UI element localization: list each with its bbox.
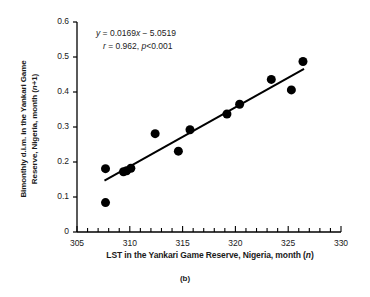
data-point — [101, 198, 110, 207]
x-tick-label: 325 — [273, 238, 303, 248]
y-tick-label: 0.2 — [43, 156, 69, 166]
x-axis-title-tail: ) — [311, 250, 314, 260]
figure-panel: Bimonthly d.i.m. in the Yankari Game Res… — [0, 0, 370, 297]
y-tick-label: 0.6 — [43, 16, 69, 26]
data-point — [126, 164, 135, 173]
data-point — [287, 85, 296, 94]
data-point — [267, 75, 276, 84]
data-point — [151, 129, 160, 138]
x-tick-label: 330 — [326, 238, 356, 248]
y-tick-label: 0.3 — [43, 121, 69, 131]
y-tick-label: 0 — [43, 226, 69, 236]
data-point — [185, 125, 194, 134]
y-tick-label: 0.4 — [43, 86, 69, 96]
regression-line — [104, 69, 304, 181]
x-axis-title-main: LST in the Yankari Game Reserve, Nigeria… — [106, 250, 305, 260]
data-point — [235, 100, 244, 109]
x-tick-label: 310 — [115, 238, 145, 248]
y-tick-label: 0.1 — [43, 191, 69, 201]
data-points — [101, 57, 307, 207]
data-point — [101, 164, 110, 173]
x-axis-title: LST in the Yankari Game Reserve, Nigeria… — [60, 250, 360, 260]
x-tick-label: 315 — [168, 238, 198, 248]
data-point — [174, 147, 183, 156]
data-point — [298, 57, 307, 66]
x-tick-label: 305 — [62, 238, 92, 248]
figure-caption: (b) — [0, 274, 370, 283]
data-point — [222, 110, 231, 119]
y-tick-label: 0.5 — [43, 51, 69, 61]
x-tick-label: 320 — [220, 238, 250, 248]
